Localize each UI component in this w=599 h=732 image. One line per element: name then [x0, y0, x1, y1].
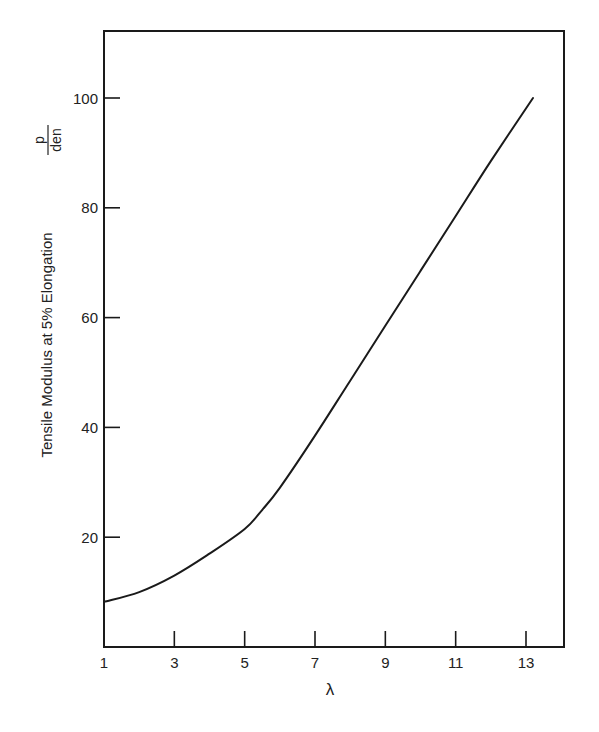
data-series — [104, 98, 533, 602]
x-tick-label: 7 — [311, 654, 319, 671]
x-tick-label: 11 — [448, 654, 464, 671]
x-tick-label: 13 — [518, 654, 535, 671]
plot-frame — [104, 31, 564, 647]
series-line — [104, 98, 533, 602]
x-axis-ticks: 135791113 — [100, 631, 535, 671]
y-tick-label: 20 — [81, 529, 98, 546]
chart-figure: 135791113 20406080100 λ Tensile Modulus … — [0, 0, 599, 732]
y-axis-label: Tensile Modulus at 5% Elongation — [38, 232, 55, 457]
y-tick-label: 80 — [81, 199, 98, 216]
x-tick-label: 3 — [170, 654, 178, 671]
x-tick-label: 1 — [100, 654, 108, 671]
y-tick-label: 100 — [73, 90, 98, 107]
x-tick-label: 5 — [240, 654, 248, 671]
y-unit-denominator: den — [48, 128, 64, 151]
chart-canvas: 135791113 20406080100 λ Tensile Modulus … — [0, 0, 599, 732]
y-axis-ticks: 20406080100 — [73, 90, 120, 546]
y-unit-numerator: p — [31, 136, 47, 144]
y-tick-label: 60 — [81, 309, 98, 326]
y-tick-label: 40 — [81, 419, 98, 436]
x-axis-label: λ — [326, 680, 335, 699]
y-axis-unit: p den — [31, 125, 64, 155]
x-tick-label: 9 — [381, 654, 389, 671]
plot-border — [104, 31, 564, 647]
